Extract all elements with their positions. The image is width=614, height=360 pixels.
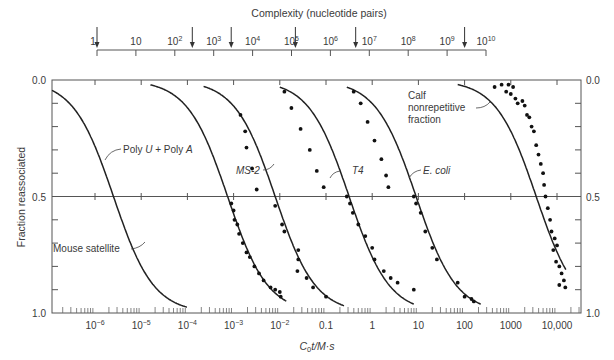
data-point	[322, 185, 326, 189]
top-tick-label: 107	[362, 35, 377, 47]
data-point	[243, 129, 247, 133]
x-tick-label: 100	[456, 320, 473, 331]
y-tick-label-left: 0.0	[32, 75, 46, 86]
data-point	[414, 202, 418, 206]
data-point	[255, 188, 259, 192]
data-point	[363, 234, 367, 238]
data-point	[521, 99, 525, 103]
data-point	[380, 157, 384, 161]
cot-curve-chart: Complexity (nucleotide pairs) 1101021031…	[0, 0, 614, 360]
top-tick-label: 106	[323, 35, 338, 47]
data-point	[345, 195, 349, 199]
label-calf-line3: fraction	[408, 114, 441, 125]
x-tick-labels: 10−610−510−410−310−20.1110100100010,000	[85, 319, 572, 331]
data-point	[248, 255, 252, 259]
data-point	[370, 246, 374, 250]
data-point	[546, 206, 550, 210]
data-point	[419, 211, 423, 215]
data-point	[311, 286, 315, 290]
x-tick-label: 10−5	[132, 319, 151, 331]
data-point	[245, 146, 249, 150]
x-tick-label: 1	[369, 320, 375, 331]
data-point	[296, 248, 300, 252]
data-point	[544, 195, 548, 199]
data-point	[382, 269, 386, 273]
data-point	[229, 202, 233, 206]
data-point	[296, 269, 300, 273]
top-tick-label: 108	[401, 35, 416, 47]
arrow-down-icon	[353, 42, 358, 48]
y-axis-title: Fraction reassociated	[15, 147, 27, 248]
label-poly-u-poly-a: Poly U + Poly A	[123, 144, 193, 155]
data-point	[523, 104, 527, 108]
reassociation-curves	[52, 85, 566, 308]
data-point	[283, 230, 287, 234]
top-tick-label: 104	[245, 35, 260, 47]
data-point	[373, 139, 377, 143]
x-tick-label: 10−2	[270, 319, 289, 331]
data-point	[557, 283, 561, 287]
data-point	[539, 162, 543, 166]
plot-area: Poly U + Poly AMouse satelliteMS-2T4E. c…	[52, 80, 581, 313]
leader-line	[476, 102, 490, 108]
y-tick-label-left: 1.0	[32, 308, 46, 319]
y-tick-label-right: 0.5	[586, 192, 600, 203]
data-point	[555, 244, 559, 248]
data-point	[387, 185, 391, 189]
data-point	[560, 272, 564, 276]
data-point	[262, 279, 266, 283]
data-point	[493, 85, 497, 89]
data-point	[305, 276, 309, 280]
data-point	[514, 97, 518, 101]
label-e-coli: E. coli	[423, 165, 451, 176]
data-point	[348, 202, 352, 206]
top-tick-label: 109	[440, 35, 455, 47]
data-point	[273, 288, 277, 292]
data-point	[245, 251, 249, 255]
label-ms-2: MS-2	[236, 165, 260, 176]
data-point	[315, 169, 319, 173]
data-point	[516, 101, 520, 105]
data-point	[278, 290, 282, 294]
data-point	[257, 272, 261, 276]
data-point	[542, 183, 546, 187]
arrow-down-icon	[462, 42, 467, 48]
data-point	[299, 127, 303, 131]
data-point	[253, 265, 257, 269]
arrow-down-icon	[190, 42, 195, 48]
x-tick-label: 0.1	[319, 320, 333, 331]
data-point	[500, 83, 504, 87]
data-point	[511, 85, 515, 89]
arrow-down-icon	[229, 42, 234, 48]
data-point	[384, 174, 388, 178]
data-point	[359, 101, 363, 105]
data-point	[463, 295, 467, 299]
data-point	[562, 279, 566, 283]
data-point	[239, 113, 243, 117]
leader-line	[409, 170, 421, 178]
data-point	[373, 258, 377, 262]
data-point	[412, 195, 416, 199]
curve-mouse-satellite	[150, 85, 286, 301]
data-point	[456, 281, 460, 285]
label-calf-line2: nonrepetitive	[408, 102, 466, 113]
data-point	[541, 171, 545, 175]
top-tick-label: 1	[90, 36, 96, 47]
x-tick-label: 10−3	[224, 319, 243, 331]
data-point	[507, 83, 511, 87]
data-point	[530, 125, 534, 129]
data-point	[366, 120, 370, 124]
data-point	[550, 230, 554, 234]
data-point	[324, 295, 328, 299]
leader-line	[330, 171, 340, 178]
data-point	[551, 248, 555, 252]
label-calf-line1: Calf	[408, 90, 426, 101]
curve-calf-nonrepetitive-fraction	[458, 85, 566, 270]
x-tick-label: 1000	[500, 320, 523, 331]
top-tick-label: 105	[284, 35, 299, 47]
x-tick-label: 10−6	[85, 319, 104, 331]
data-point	[563, 286, 567, 290]
label-t4: T4	[352, 165, 364, 176]
x-tick-label: 10	[413, 320, 425, 331]
top-tick-label: 102	[167, 35, 182, 47]
